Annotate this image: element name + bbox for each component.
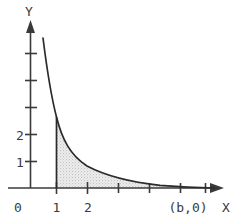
x-tick-label-2: 2 <box>84 200 92 215</box>
y-axis-label: Y <box>25 4 33 19</box>
y-tick-label-1: 1 <box>16 155 24 170</box>
y-tick-label-2: 2 <box>16 128 24 143</box>
x-axis-label: X <box>222 200 230 215</box>
shaded-area-under-curve <box>57 117 215 188</box>
origin-label: 0 <box>14 200 22 215</box>
y-axis-arrowhead <box>26 20 35 33</box>
hyperbola-area-figure: Y X 0 1 2 1 2 (b,0) <box>0 0 237 223</box>
right-endpoint-label: (b,0) <box>168 200 207 215</box>
x-tick-label-1: 1 <box>53 200 61 215</box>
figure-canvas: Y X 0 1 2 1 2 (b,0) <box>0 0 237 223</box>
